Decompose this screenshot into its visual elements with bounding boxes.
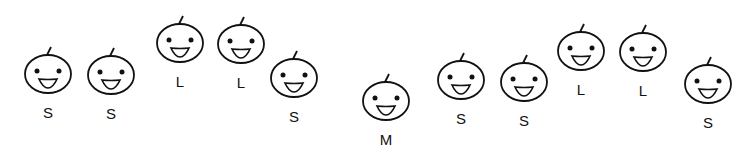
smiley-face-icon: [155, 14, 205, 64]
smiley-face-icon: [216, 15, 266, 65]
face-label: S: [446, 111, 476, 127]
smiley-face-icon: [618, 23, 668, 73]
face-label: S: [279, 109, 309, 125]
face-label: L: [628, 83, 658, 99]
face-label: L: [566, 82, 596, 98]
smiley-face-icon: [556, 22, 606, 72]
face-label: S: [509, 113, 539, 129]
face-label: S: [96, 106, 126, 122]
face-label: S: [693, 115, 723, 131]
face-label: M: [371, 132, 401, 148]
smiley-face-icon: [499, 53, 549, 103]
smiley-face-icon: [23, 45, 73, 95]
smiley-face-icon: [683, 55, 733, 105]
face-label: L: [226, 75, 256, 91]
face-label: L: [165, 74, 195, 90]
smiley-face-icon: [269, 49, 319, 99]
smiley-face-icon: [361, 72, 411, 122]
smiley-face-icon: [86, 46, 136, 96]
smiley-face-icon: [436, 51, 486, 101]
face-label: S: [33, 105, 63, 121]
faces-diagram: S S L L S M S: [0, 0, 752, 155]
